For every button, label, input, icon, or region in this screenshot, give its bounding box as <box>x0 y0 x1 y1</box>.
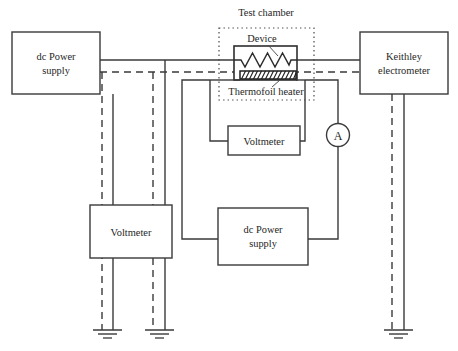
keithley-electrometer-box[interactable] <box>360 32 448 94</box>
dc-power-supply-lower-label-line2: supply <box>249 238 278 249</box>
device-label: Device <box>247 33 277 44</box>
wire-heater-right-outer-loop <box>305 80 338 124</box>
block-dc-power-supply-left[interactable]: dc Power supply <box>12 32 100 94</box>
thermofoil-heater-label: Thermofoil heater <box>228 86 304 97</box>
ground-symbol-left <box>93 330 122 338</box>
figure-canvas: dc Power supply Keithley electrometer <box>0 0 458 351</box>
block-dc-power-supply-lower[interactable]: dc Power supply <box>218 208 308 265</box>
block-keithley-electrometer[interactable]: Keithley electrometer <box>360 32 448 94</box>
wire-heater-to-voltmeter-upper-left <box>210 80 228 141</box>
dc-power-supply-lower-box[interactable] <box>218 208 308 265</box>
test-chamber-title: Test chamber <box>238 7 294 18</box>
wire-ammeter-to-dcsupply-lower <box>308 146 338 239</box>
schematic-diagram: dc Power supply Keithley electrometer <box>0 0 458 351</box>
dc-power-supply-lower-label-line1: dc Power <box>244 224 283 235</box>
wire-heater-left-outer-loop <box>182 80 218 239</box>
keithley-electrometer-label-line2: electrometer <box>378 65 430 76</box>
device-heater-assembly <box>210 46 305 80</box>
voltmeter-left-label: Voltmeter <box>111 227 152 238</box>
block-voltmeter-left[interactable]: Voltmeter <box>90 205 172 258</box>
ground-symbol-middle <box>145 330 174 338</box>
keithley-electrometer-label-line1: Keithley <box>386 51 423 62</box>
ground-symbol-right <box>384 330 413 338</box>
dc-power-supply-left-box[interactable] <box>12 32 100 94</box>
block-voltmeter-upper[interactable]: Voltmeter <box>228 126 300 155</box>
wire-group-solid <box>100 60 404 330</box>
dc-power-supply-left-label-line2: supply <box>42 65 71 76</box>
dc-power-supply-left-label-line1: dc Power <box>37 51 76 62</box>
voltmeter-upper-label: Voltmeter <box>244 136 285 147</box>
ammeter-symbol[interactable]: A <box>327 124 350 147</box>
wire-group-dashed <box>100 72 392 330</box>
ammeter-label: A <box>334 129 343 143</box>
